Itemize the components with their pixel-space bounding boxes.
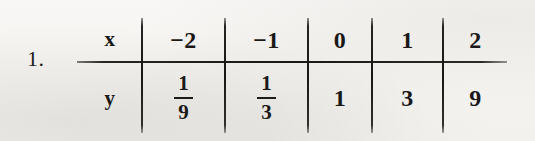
table-cell-x-1-value: −2: [170, 28, 197, 52]
fraction-numerator: 1: [176, 73, 191, 94]
table-cell-y-5: 9: [444, 63, 507, 133]
fraction-denominator: 9: [176, 102, 191, 123]
exercise-page: 1. x −2 −1 0 1 2 y 1 9 1 3: [0, 0, 535, 141]
table-cell-x-2: −1: [226, 18, 307, 61]
table-cell-y-3: 1: [309, 63, 371, 133]
table-cell-x-3-value: 0: [334, 28, 347, 52]
fraction-denominator: 3: [259, 102, 274, 123]
table-cell-y-5-value: 9: [469, 86, 482, 110]
table-cell-x-4-value: 1: [401, 28, 414, 52]
table-cell-y-4: 3: [373, 63, 442, 133]
table-cell-x-2-value: −1: [253, 28, 280, 52]
table-cell-y-3-value: 1: [334, 86, 347, 110]
table-cell-x-5-value: 2: [469, 28, 482, 52]
row-header-x: x: [79, 18, 141, 61]
table-cell-y-2: 1 3: [226, 63, 307, 133]
fraction-numerator: 1: [259, 73, 274, 94]
table-cell-x-3: 0: [309, 18, 371, 61]
table-cell-y-4-value: 3: [401, 86, 414, 110]
table-cell-y-1: 1 9: [143, 63, 224, 133]
table-cell-x-5: 2: [444, 18, 507, 61]
row-header-y-label: y: [105, 88, 116, 109]
exercise-number-label: 1.: [27, 48, 45, 70]
fraction-one-third: 1 3: [257, 73, 276, 123]
fraction-bar: [174, 97, 193, 99]
table-cell-x-4: 1: [373, 18, 442, 61]
fraction-one-ninth: 1 9: [174, 73, 193, 123]
row-header-y: y: [79, 63, 141, 133]
table-cell-x-1: −2: [143, 18, 224, 61]
row-header-x-label: x: [105, 29, 116, 50]
fraction-bar: [257, 97, 276, 99]
